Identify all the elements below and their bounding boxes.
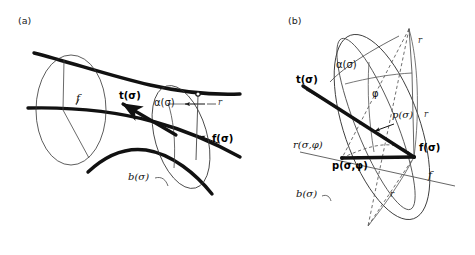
panel-b-radius-right-label: r	[424, 110, 428, 119]
f-point-dot-b	[412, 155, 416, 159]
panel-a-t-vector-label: t(σ)	[119, 91, 141, 101]
t-vector-arrow-a	[123, 104, 176, 135]
panel-b-p-sigma-phi-label: p(σ,φ)	[332, 161, 368, 171]
outer-disc-ellipse-b	[314, 23, 449, 231]
left-ellipse-diagonal-chord	[63, 110, 89, 158]
panel-a-f-vector-label: f(σ)	[212, 134, 233, 144]
panel-b-f-italic-label: f	[428, 170, 432, 181]
panel-a-tag: (a)	[18, 16, 31, 26]
panel-a-radius-label: r	[218, 98, 222, 107]
diagram-vector-layer	[0, 0, 475, 255]
panel-a-b-curve-label: b(σ)	[128, 172, 149, 182]
p-sigma-leader-b	[375, 124, 394, 131]
dashed-apex-line-b	[368, 29, 409, 226]
panel-b-alpha-label: α(σ)	[336, 60, 357, 70]
f-direction-line-a	[196, 95, 198, 160]
p-vector-thick-b	[342, 157, 414, 158]
panel-b-b-curve-label: b(σ)	[296, 189, 317, 199]
panel-b-r-sigma-phi-label: r(σ,φ)	[293, 140, 323, 150]
tube-top-curve	[34, 53, 240, 94]
frame-origin-dot-a	[196, 92, 200, 96]
tube-bottom-curve	[88, 149, 212, 194]
panel-a-f-italic-label: f	[76, 93, 80, 104]
panel-a-alpha-label: α(σ)	[154, 98, 175, 108]
panel-b-radius-top-label: r	[418, 36, 422, 45]
panel-b-p-sigma-label: p(σ)	[392, 110, 413, 120]
figure-canvas: (a) f t(σ) α(σ) r f(σ) b(σ) (b) α(σ) t(σ…	[0, 0, 475, 255]
left-ellipse-vertical-chord	[63, 60, 64, 110]
phi-arc-b	[368, 62, 374, 152]
panel-b-radius-bottom-label: r	[390, 190, 394, 199]
b-leader-b	[322, 195, 331, 201]
panel-b-phi-label: φ	[372, 89, 379, 99]
panel-b-tag: (b)	[288, 16, 301, 26]
panel-b-graphics	[300, 23, 455, 231]
panel-b-f-vector-label: f(σ)	[419, 143, 440, 153]
panel-b-t-vector-label: t(σ)	[296, 75, 318, 85]
b-leader-curve-a	[155, 177, 168, 186]
